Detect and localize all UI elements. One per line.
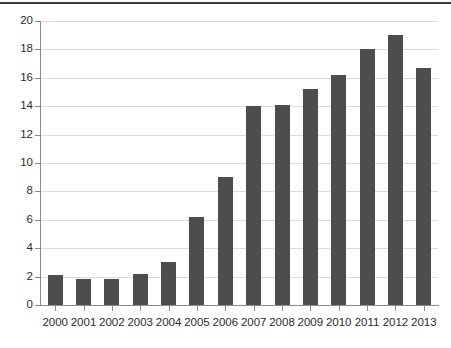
bar-2009[interactable] — [303, 89, 318, 305]
gridline — [41, 248, 438, 249]
gridline — [41, 277, 438, 278]
x-axis-tick-label: 2001 — [69, 316, 97, 329]
x-axis-tick-label: 2011 — [353, 316, 381, 329]
y-axis-tick-mark — [35, 49, 41, 50]
gridline — [41, 78, 438, 79]
y-axis-tick-mark — [35, 248, 41, 249]
y-axis-tick-mark — [35, 305, 41, 306]
x-axis-tick-mark — [310, 306, 311, 311]
y-axis-tick-label-group: 02468101214161820 — [0, 0, 33, 348]
bar-2003[interactable] — [133, 274, 148, 305]
bar-2004[interactable] — [161, 262, 176, 305]
x-axis-tick-mark — [254, 306, 255, 311]
bar-2000[interactable] — [48, 275, 63, 305]
gridline — [41, 220, 438, 221]
bar-2005[interactable] — [189, 217, 204, 305]
x-axis-tick-mark — [424, 306, 425, 311]
y-axis-tick-label: 10 — [3, 157, 33, 169]
y-axis-tick-label: 20 — [3, 15, 33, 27]
y-axis-tick-label: 18 — [3, 43, 33, 55]
gridline — [41, 49, 438, 50]
y-axis-tick-label: 12 — [3, 129, 33, 141]
x-axis-tick-mark — [282, 306, 283, 311]
x-axis-tick-label: 2002 — [98, 316, 126, 329]
y-axis-tick-label: 2 — [3, 271, 33, 283]
gridline — [41, 191, 438, 192]
x-axis-tick-mark — [112, 306, 113, 311]
top-divider-rule — [0, 2, 451, 4]
x-axis-tick-mark — [367, 306, 368, 311]
bar-2010[interactable] — [331, 75, 346, 305]
y-axis-tick-label: 8 — [3, 185, 33, 197]
bar-2013[interactable] — [416, 68, 431, 305]
x-axis-tick-mark — [339, 306, 340, 311]
x-axis-tick-label: 2006 — [211, 316, 239, 329]
x-axis-tick-label: 2004 — [154, 316, 182, 329]
x-axis-tick-label: 2008 — [268, 316, 296, 329]
bar-2002[interactable] — [104, 279, 119, 305]
y-axis-tick-label: 4 — [3, 242, 33, 254]
y-axis-tick-mark — [35, 191, 41, 192]
x-axis-tick-mark — [197, 306, 198, 311]
gridline — [41, 135, 438, 136]
x-axis-tick-label: 2003 — [126, 316, 154, 329]
y-axis-tick-mark — [35, 135, 41, 136]
y-axis-tick-label: 6 — [3, 214, 33, 226]
x-axis-tick-mark — [55, 306, 56, 311]
y-axis-tick-label: 0 — [3, 299, 33, 311]
bar-2008[interactable] — [275, 105, 290, 305]
x-axis-tick-label: 2005 — [183, 316, 211, 329]
x-axis-tick-mark — [140, 306, 141, 311]
bar-2006[interactable] — [218, 177, 233, 305]
y-axis-tick-mark — [35, 78, 41, 79]
x-axis-tick-label: 2007 — [240, 316, 268, 329]
y-axis-tick-label: 14 — [3, 100, 33, 112]
x-axis-tick-label: 2000 — [41, 316, 69, 329]
x-axis-tick-label: 2013 — [410, 316, 438, 329]
x-axis-tick-label: 2012 — [381, 316, 409, 329]
gridline — [41, 106, 438, 107]
x-axis-tick-label: 2010 — [325, 316, 353, 329]
x-axis-line — [41, 305, 439, 306]
bar-2012[interactable] — [388, 35, 403, 305]
y-axis-tick-mark — [35, 21, 41, 22]
gridline — [41, 163, 438, 164]
x-axis-tick-mark — [84, 306, 85, 311]
y-axis-tick-mark — [35, 220, 41, 221]
bar-2001[interactable] — [76, 279, 91, 305]
plot-area — [41, 21, 438, 305]
bar-chart-figure: 02468101214161820 2000200120022003200420… — [0, 0, 451, 348]
x-axis-tick-mark — [225, 306, 226, 311]
gridline — [41, 21, 438, 22]
y-axis-tick-label: 16 — [3, 72, 33, 84]
bar-2007[interactable] — [246, 106, 261, 305]
x-axis-tick-mark — [395, 306, 396, 311]
x-axis-tick-mark — [169, 306, 170, 311]
y-axis-tick-mark — [35, 106, 41, 107]
y-axis-tick-mark — [35, 163, 41, 164]
bar-2011[interactable] — [360, 49, 375, 305]
y-axis-tick-mark — [35, 277, 41, 278]
x-axis-tick-label: 2009 — [296, 316, 324, 329]
